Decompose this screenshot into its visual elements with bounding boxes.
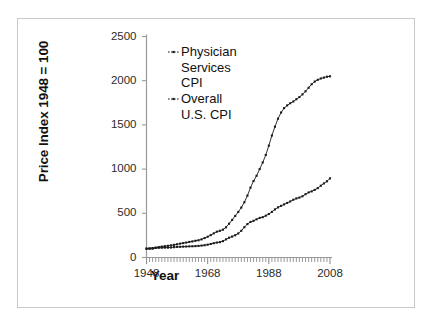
series-marker-1	[201, 245, 203, 247]
series-marker-0	[228, 223, 230, 225]
series-marker-0	[179, 243, 181, 245]
legend-label-0: Physician Services CPI	[181, 44, 237, 91]
series-marker-0	[304, 90, 306, 92]
series-marker-0	[207, 236, 209, 238]
series-marker-1	[323, 182, 325, 184]
series-marker-1	[225, 238, 227, 240]
series-marker-1	[149, 248, 151, 250]
series-marker-1	[262, 216, 264, 218]
series-marker-1	[268, 213, 270, 215]
series-marker-1	[161, 247, 163, 249]
series-marker-0	[231, 219, 233, 221]
legend-label-1: Overall U.S. CPI	[181, 91, 232, 122]
series-marker-0	[259, 168, 261, 170]
series-marker-1	[145, 248, 147, 250]
series-marker-1	[301, 195, 303, 197]
series-marker-1	[152, 248, 154, 250]
series-marker-1	[158, 247, 160, 249]
series-marker-1	[219, 241, 221, 243]
series-marker-1	[164, 247, 166, 249]
series-marker-1	[249, 221, 251, 223]
series-marker-0	[182, 242, 184, 244]
series-marker-0	[311, 83, 313, 85]
series-marker-0	[201, 238, 203, 240]
series-marker-1	[295, 197, 297, 199]
series-marker-0	[256, 175, 258, 177]
series-line-0	[147, 76, 331, 248]
series-marker-0	[237, 211, 239, 213]
legend-marker-dot-1	[172, 98, 174, 100]
legend-markers	[168, 51, 179, 100]
series-marker-0	[329, 75, 331, 77]
series-marker-0	[249, 187, 251, 189]
series-marker-1	[179, 246, 181, 248]
data-series-group	[145, 75, 331, 250]
series-marker-0	[314, 81, 316, 83]
series-marker-1	[277, 206, 279, 208]
series-marker-0	[194, 240, 196, 242]
series-marker-0	[240, 207, 242, 209]
series-marker-1	[234, 234, 236, 236]
series-marker-0	[204, 237, 206, 239]
series-marker-0	[292, 100, 294, 102]
series-marker-1	[176, 246, 178, 248]
series-marker-1	[320, 185, 322, 187]
series-marker-0	[191, 240, 193, 242]
series-marker-0	[271, 134, 273, 136]
series-marker-1	[228, 237, 230, 239]
chart-figure: Price Index 1948 = 100 Year 050010001500…	[0, 0, 433, 326]
series-marker-0	[185, 242, 187, 244]
series-marker-1	[216, 242, 218, 244]
series-marker-0	[320, 77, 322, 79]
series-marker-0	[289, 102, 291, 104]
series-marker-0	[277, 118, 279, 120]
series-marker-1	[222, 240, 224, 242]
series-marker-0	[216, 231, 218, 233]
series-marker-0	[326, 76, 328, 78]
series-marker-1	[271, 211, 273, 213]
series-marker-0	[298, 96, 300, 98]
series-marker-1	[298, 197, 300, 199]
series-marker-1	[188, 245, 190, 247]
series-marker-0	[243, 201, 245, 203]
series-marker-1	[259, 217, 261, 219]
axes-lines	[147, 35, 333, 258]
series-marker-1	[280, 205, 282, 207]
series-marker-1	[314, 189, 316, 191]
series-marker-1	[173, 246, 175, 248]
series-marker-0	[317, 79, 319, 81]
series-marker-1	[289, 200, 291, 202]
series-marker-0	[274, 126, 276, 128]
series-marker-1	[240, 230, 242, 232]
series-marker-1	[210, 243, 212, 245]
series-marker-1	[265, 215, 267, 217]
series-marker-0	[234, 215, 236, 217]
series-marker-1	[292, 199, 294, 201]
series-marker-0	[301, 93, 303, 95]
series-marker-1	[170, 246, 172, 248]
series-marker-0	[246, 195, 248, 197]
series-marker-1	[274, 208, 276, 210]
series-marker-1	[304, 193, 306, 195]
series-marker-0	[323, 77, 325, 79]
series-line-1	[147, 178, 331, 248]
series-marker-0	[170, 244, 172, 246]
series-marker-1	[167, 247, 169, 249]
series-marker-1	[185, 245, 187, 247]
legend-marker-dot-0	[172, 51, 174, 53]
series-marker-1	[194, 245, 196, 247]
series-marker-0	[173, 244, 175, 246]
series-marker-1	[326, 180, 328, 182]
series-marker-1	[204, 244, 206, 246]
series-marker-0	[219, 230, 221, 232]
series-marker-1	[286, 202, 288, 204]
series-marker-0	[213, 232, 215, 234]
series-marker-0	[225, 226, 227, 228]
series-marker-1	[213, 242, 215, 244]
series-marker-1	[237, 232, 239, 234]
series-marker-0	[222, 229, 224, 231]
series-marker-1	[182, 246, 184, 248]
series-marker-0	[286, 104, 288, 106]
series-marker-1	[317, 187, 319, 189]
series-marker-0	[308, 87, 310, 89]
